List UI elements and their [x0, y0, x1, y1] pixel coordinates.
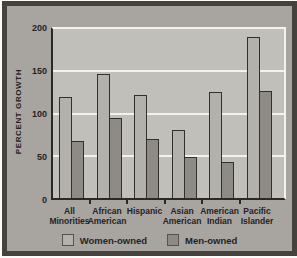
bar-men-owned-asian-american [184, 157, 197, 198]
x-axis-tick [201, 200, 203, 204]
plot-area [51, 27, 286, 200]
x-axis-tick [126, 200, 128, 204]
chart-figure: PERCENT GROWTH 050100150200 AllMinoritie… [2, 1, 297, 256]
y-tick-150: 150 [21, 67, 47, 76]
y-tick-200: 200 [21, 24, 47, 33]
bar-men-owned-all-minorities [71, 141, 84, 198]
bar-men-owned-african-american [109, 118, 122, 198]
legend-swatch-men-owned [167, 234, 179, 246]
legend-swatch-women-owned [62, 234, 74, 246]
y-tick-100: 100 [21, 110, 47, 119]
y-tick-0: 0 [21, 196, 47, 205]
x-axis-tick [164, 200, 166, 204]
legend-label: Women-owned [80, 235, 147, 246]
y-tick-50: 50 [21, 153, 47, 162]
bar-men-owned-pacific-islander [259, 91, 272, 198]
legend-item-men-owned: Men-owned [167, 234, 237, 246]
x-axis-tick [239, 200, 241, 204]
bar-men-owned-hispanic [146, 139, 159, 198]
category-label-pacific-islander: PacificIslander [225, 206, 289, 226]
legend: Women-ownedMen-owned [7, 234, 292, 246]
x-axis-tick [89, 200, 91, 204]
legend-item-women-owned: Women-owned [62, 234, 147, 246]
legend-label: Men-owned [185, 235, 237, 246]
bar-men-owned-american-indian [221, 162, 234, 198]
